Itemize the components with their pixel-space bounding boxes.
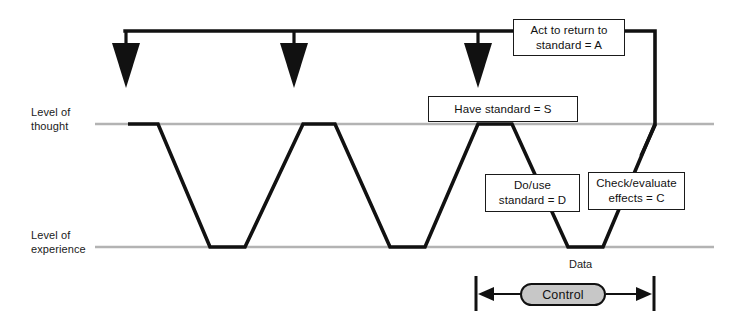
down-arrow-2 <box>280 31 308 88</box>
level-of-experience-label-line1: Level of <box>31 229 70 241</box>
level-of-experience-label-line2: experience <box>31 243 86 255</box>
data-annotation-label: Data <box>569 258 592 270</box>
callout-act-to-return-to-standard: Act to return to standard = A <box>513 19 625 56</box>
callout-act-line2: standard = A <box>536 38 602 53</box>
level-of-thought-label: Level of thought <box>31 106 70 133</box>
level-of-experience-label: Level of experience <box>31 229 86 256</box>
callout-do-use-standard: Do/use standard = D <box>485 174 580 212</box>
callout-have-standard: Have standard = S <box>428 96 578 122</box>
control-pill-label: Control <box>520 283 606 306</box>
callout-check-line2: effects = C <box>608 191 664 206</box>
level-of-thought-label-line2: thought <box>31 120 68 132</box>
callout-act-line1: Act to return to <box>530 23 607 38</box>
level-of-thought-label-line1: Level of <box>31 106 70 118</box>
callout-check-evaluate-effects: Check/evaluate effects = C <box>588 172 685 210</box>
callout-do-use-line1: Do/use <box>514 178 551 193</box>
down-arrow-3 <box>464 31 492 88</box>
down-arrow-1 <box>112 31 140 88</box>
callout-do-use-line2: standard = D <box>499 193 566 208</box>
diagram-canvas: Level of thought Level of experience Act… <box>0 0 729 322</box>
callout-check-line1: Check/evaluate <box>596 176 677 191</box>
callout-have-standard-line1: Have standard = S <box>454 102 551 117</box>
